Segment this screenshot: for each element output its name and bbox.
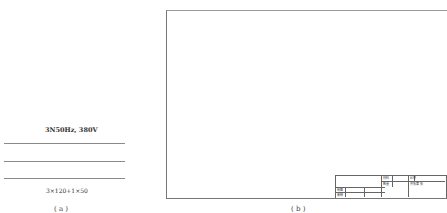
material-label: 材料 xyxy=(383,177,389,180)
conductor-line-2 xyxy=(4,161,125,162)
drawing-frame xyxy=(166,10,447,199)
conductor-line-3 xyxy=(4,178,125,179)
caption-a: ( a ) xyxy=(54,205,68,213)
caption-b: ( b ) xyxy=(291,205,305,213)
supply-label: 3N50Hz, 380V xyxy=(45,126,97,134)
drawn-by-label: 制图 xyxy=(337,189,343,192)
scale-label: 比例 xyxy=(410,177,416,180)
reviewed-by-label: 审核 xyxy=(337,194,343,197)
cable-label: 3×120+1×50 xyxy=(46,187,88,194)
conductor-line-1 xyxy=(4,143,125,144)
sheets-label: 共 张第 张 xyxy=(410,183,424,186)
quantity-label: 数量 xyxy=(383,183,389,186)
